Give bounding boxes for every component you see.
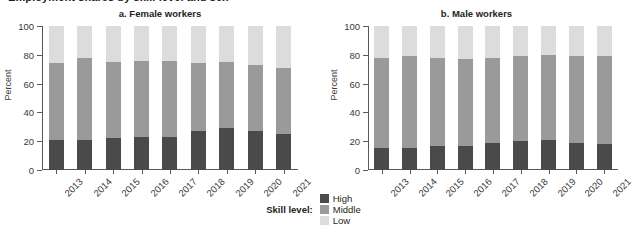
bar-segment-low xyxy=(569,26,584,56)
bar-segment-middle xyxy=(219,62,234,128)
bar-segment-middle xyxy=(485,58,500,143)
legend-swatch-low-icon xyxy=(320,216,329,225)
bar-segment-middle xyxy=(77,58,92,140)
bar-2021[interactable] xyxy=(597,26,612,170)
bar-segment-middle xyxy=(374,58,389,149)
bar-segment-low xyxy=(430,26,445,58)
bar-segment-low xyxy=(106,26,121,62)
x-tick-2020 xyxy=(255,170,256,174)
bar-segment-middle xyxy=(134,61,149,137)
bar-2018[interactable] xyxy=(191,26,206,170)
x-tick-2018 xyxy=(198,170,199,174)
bar-2016[interactable] xyxy=(458,26,473,170)
legend-title: Skill level: xyxy=(266,204,312,215)
y-tick-label-0: 0 xyxy=(355,165,360,176)
bar-segment-middle xyxy=(597,56,612,144)
bar-2019[interactable] xyxy=(219,26,234,170)
bar-segment-high xyxy=(191,131,206,170)
legend-item-low[interactable]: Low xyxy=(320,215,361,226)
x-tick-2019 xyxy=(227,170,228,174)
bar-segment-low xyxy=(49,26,64,63)
bar-segment-middle xyxy=(458,59,473,145)
bar-2015[interactable] xyxy=(106,26,121,170)
x-tick-2014 xyxy=(85,170,86,174)
x-tick-2016 xyxy=(465,170,466,174)
bar-segment-low xyxy=(248,26,263,65)
bar-group-b xyxy=(368,26,618,170)
x-tick-2013 xyxy=(382,170,383,174)
bar-segment-high xyxy=(219,128,234,170)
y-tick-label-40: 40 xyxy=(349,107,360,118)
bar-segment-low xyxy=(219,26,234,62)
y-axis-label-a: Percent xyxy=(3,55,13,115)
x-tick-2016 xyxy=(142,170,143,174)
panel-title-b: b. Male workers xyxy=(318,8,635,19)
y-tick-label-60: 60 xyxy=(23,78,34,89)
bar-2019[interactable] xyxy=(541,26,556,170)
bar-segment-middle xyxy=(162,61,177,137)
x-tick-2015 xyxy=(113,170,114,174)
bar-segment-high xyxy=(402,148,417,170)
legend-item-middle[interactable]: Middle xyxy=(320,204,361,215)
y-tick-label-80: 80 xyxy=(23,49,34,60)
legend-swatch-middle-icon xyxy=(320,205,329,214)
x-tick-2021 xyxy=(604,170,605,174)
legend-item-high[interactable]: High xyxy=(320,193,361,204)
bar-segment-high xyxy=(569,143,584,170)
y-tick-label-20: 20 xyxy=(349,136,360,147)
bar-segment-low xyxy=(162,26,177,61)
bar-segment-high xyxy=(162,137,177,170)
y-axis-label-b: Percent xyxy=(329,55,339,115)
bar-segment-high xyxy=(276,134,291,170)
bar-segment-high xyxy=(134,137,149,170)
legend-label: Low xyxy=(333,215,350,226)
bar-segment-high xyxy=(248,131,263,170)
bar-segment-high xyxy=(374,148,389,170)
bar-segment-low xyxy=(485,26,500,58)
bar-segment-middle xyxy=(49,63,64,139)
x-tick-2017 xyxy=(493,170,494,174)
bar-segment-middle xyxy=(191,63,206,131)
chart-legend: Skill level: HighMiddleLow xyxy=(0,193,635,226)
bar-segment-middle xyxy=(513,56,528,141)
bar-2013[interactable] xyxy=(374,26,389,170)
bar-2020[interactable] xyxy=(569,26,584,170)
bar-group-a xyxy=(42,26,298,170)
bar-2021[interactable] xyxy=(276,26,291,170)
bar-2014[interactable] xyxy=(402,26,417,170)
bar-segment-high xyxy=(513,141,528,170)
bar-segment-low xyxy=(276,26,291,68)
bar-segment-middle xyxy=(106,62,121,138)
bar-segment-middle xyxy=(569,56,584,142)
bar-2015[interactable] xyxy=(430,26,445,170)
bar-2020[interactable] xyxy=(248,26,263,170)
bar-2014[interactable] xyxy=(77,26,92,170)
legend-label: High xyxy=(333,193,353,204)
bar-segment-high xyxy=(458,146,473,170)
bar-segment-high xyxy=(597,144,612,170)
bar-segment-high xyxy=(106,138,121,170)
bar-2017[interactable] xyxy=(162,26,177,170)
x-tick-2019 xyxy=(549,170,550,174)
x-tick-2013 xyxy=(56,170,57,174)
x-tick-2020 xyxy=(576,170,577,174)
y-tick-label-40: 40 xyxy=(23,107,34,118)
bar-segment-middle xyxy=(248,65,263,131)
bar-2016[interactable] xyxy=(134,26,149,170)
bar-2018[interactable] xyxy=(513,26,528,170)
bar-2013[interactable] xyxy=(49,26,64,170)
bar-segment-middle xyxy=(541,55,556,140)
x-tick-2015 xyxy=(437,170,438,174)
x-tick-2017 xyxy=(170,170,171,174)
x-tick-2018 xyxy=(521,170,522,174)
bar-segment-low xyxy=(402,26,417,56)
panel-title-a: a. Female workers xyxy=(0,8,320,19)
bar-segment-low xyxy=(134,26,149,61)
panel-female-workers: a. Female workers Percent 020406080100 2… xyxy=(0,8,320,208)
bar-segment-low xyxy=(191,26,206,63)
bar-segment-high xyxy=(541,140,556,170)
bar-segment-low xyxy=(77,26,92,58)
bar-2017[interactable] xyxy=(485,26,500,170)
y-tick-label-100: 100 xyxy=(344,21,360,32)
y-tick-label-100: 100 xyxy=(18,21,34,32)
